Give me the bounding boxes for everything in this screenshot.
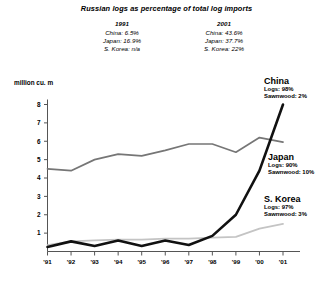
- y-axis-tick-label: 2: [37, 211, 41, 218]
- annotation-china-logs: Logs: 98%: [264, 86, 307, 93]
- x-axis-tick-label: '00: [255, 258, 264, 265]
- x-axis-tick-label: '98: [208, 258, 217, 265]
- line-chart-plot: 12345678'91'92'93'94'95'96'97'98'99'00'0…: [0, 0, 333, 287]
- x-axis-tick-label: '97: [185, 258, 194, 265]
- chart-page: Russian logs as percentage of total log …: [0, 0, 333, 287]
- annotation-japan-logs: Logs: 90%: [268, 162, 314, 169]
- annotation-china-name: China: [264, 76, 307, 86]
- series-line-china: [48, 105, 284, 247]
- x-axis-tick-label: '93: [90, 258, 99, 265]
- annotation-japan: Japan Logs: 90% Sawnwood: 10%: [268, 152, 314, 176]
- y-axis-tick-label: 4: [37, 174, 41, 181]
- annotation-china: China Logs: 98% Sawnwood: 2%: [264, 76, 307, 100]
- y-axis-tick-label: 3: [37, 193, 41, 200]
- annotation-skorea-sawnwood: Sawnwood: 3%: [264, 211, 307, 218]
- annotation-japan-sawnwood: Sawnwood: 10%: [268, 169, 314, 176]
- x-axis-tick-label: '91: [43, 258, 52, 265]
- x-axis-tick-label: '96: [161, 258, 170, 265]
- annotation-skorea-logs: Logs: 97%: [264, 204, 307, 211]
- x-axis-tick-label: '95: [138, 258, 147, 265]
- annotation-skorea: S. Korea Logs: 97% Sawnwood: 3%: [264, 194, 307, 218]
- annotation-japan-name: Japan: [268, 152, 314, 162]
- series-line-japan: [48, 138, 284, 171]
- y-axis-tick-label: 1: [37, 229, 41, 236]
- x-axis-tick-label: '92: [67, 258, 76, 265]
- x-axis-tick-label: '94: [114, 258, 123, 265]
- y-axis-tick-label: 5: [37, 156, 41, 163]
- series-line-s-korea: [48, 224, 284, 245]
- annotation-skorea-name: S. Korea: [264, 194, 307, 204]
- y-axis-tick-label: 8: [37, 101, 41, 108]
- y-axis-tick-label: 6: [37, 138, 41, 145]
- x-axis-tick-label: '99: [232, 258, 241, 265]
- y-axis-tick-label: 7: [37, 119, 41, 126]
- annotation-china-sawnwood: Sawnwood: 2%: [264, 93, 307, 100]
- x-axis-tick-label: '01: [279, 258, 288, 265]
